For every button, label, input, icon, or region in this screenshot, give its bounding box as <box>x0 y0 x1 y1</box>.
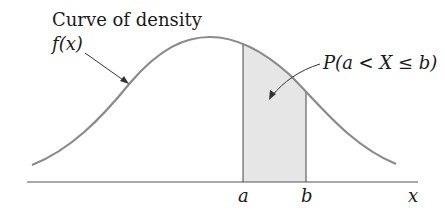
axis-label-x: x <box>408 185 418 206</box>
curve-pointer-arrow <box>85 53 126 82</box>
curve-title: Curve of density <box>52 9 202 30</box>
arrowhead-icon <box>120 76 129 84</box>
diagram-graphics <box>0 0 445 210</box>
density-function-label: f(x) <box>52 33 83 54</box>
density-diagram: Curve of density f(x) P(a < X ≤ b) a b x <box>0 0 445 210</box>
probability-label: P(a < X ≤ b) <box>323 52 437 73</box>
axis-label-b: b <box>301 185 313 206</box>
axis-label-a: a <box>238 185 249 206</box>
shaded-probability-area <box>243 43 306 182</box>
